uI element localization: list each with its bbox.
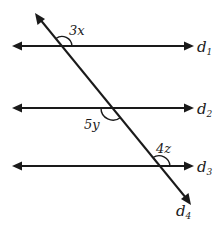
- line-label-d1: d: [197, 38, 207, 56]
- svg-text:d4: d4: [176, 202, 192, 221]
- arrow-right-icon: [184, 42, 194, 51]
- arrow-right-icon: [184, 162, 194, 171]
- line-label-d4: d: [176, 202, 186, 220]
- line-d3: d3: [12, 158, 213, 177]
- angle-label-3x: 3x: [69, 23, 85, 38]
- angle-label-5y: 5y: [84, 117, 100, 132]
- arrow-left-icon: [12, 162, 22, 171]
- line-d2: d2: [12, 100, 213, 119]
- angle-label-4z: 4z: [155, 141, 171, 156]
- svg-text:d1: d1: [197, 38, 212, 57]
- line-label-d3: d: [197, 158, 207, 176]
- line-subscript-d4: 4: [185, 211, 192, 221]
- arrow-right-icon: [184, 104, 194, 113]
- parallel-lines-diagram: d1 d2 d3 d4 3x 5y: [0, 0, 216, 225]
- line-subscript-d2: 2: [206, 109, 213, 119]
- line-d1: d1: [12, 38, 212, 57]
- svg-text:d3: d3: [197, 158, 213, 177]
- line-label-d2: d: [197, 100, 207, 118]
- angle-3x: 3x: [56, 23, 85, 46]
- line-subscript-d3: 3: [207, 167, 213, 177]
- line-subscript-d1: 1: [207, 47, 213, 57]
- transversal-d4: d4: [35, 13, 192, 221]
- svg-text:d2: d2: [197, 100, 213, 119]
- arrow-left-icon: [12, 104, 22, 113]
- arrow-left-icon: [12, 42, 22, 51]
